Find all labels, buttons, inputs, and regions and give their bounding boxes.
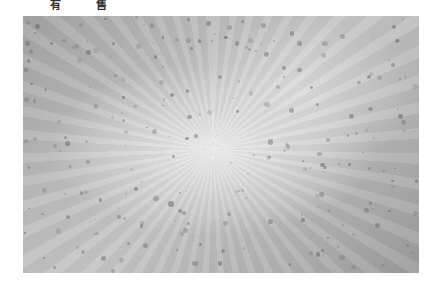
speck [30,83,33,86]
speck [98,97,100,99]
textured-photo [23,16,419,273]
speck [122,96,125,99]
speck [93,48,98,53]
speck [117,215,121,219]
speck [168,201,173,206]
speck [391,180,393,182]
speck [323,166,326,169]
speck [194,134,198,138]
speck [163,98,165,100]
speck [403,130,405,132]
speck [186,89,190,93]
speck [375,223,380,228]
speck [241,20,244,23]
speck [42,188,47,193]
speck [264,52,269,57]
speck [260,43,262,45]
speck [406,244,409,247]
speck [221,249,225,253]
speck [104,18,106,20]
speck [227,212,230,215]
speck [261,23,266,28]
speck [199,243,202,246]
speck [225,36,227,38]
speck [337,246,339,248]
speck [182,211,186,215]
speck [355,132,358,135]
speck [69,165,72,168]
speck [418,20,419,22]
speck [207,110,212,115]
speck [327,237,329,239]
speck [130,168,133,171]
speck [77,58,82,63]
speck [289,108,294,113]
speck [399,78,401,80]
speck [253,154,255,156]
speck [347,134,349,136]
speck [123,217,126,220]
speck [180,232,184,236]
caption-row: 有 售 [0,0,439,16]
speck [297,41,302,46]
speck [125,144,126,145]
speck [283,76,285,78]
speck [216,134,217,135]
speck [395,39,399,43]
speck [369,72,373,76]
speck [186,38,191,43]
speck [282,66,286,70]
speck [192,261,197,266]
speck [338,163,340,165]
speck [268,156,270,158]
speck [74,44,79,49]
speck [286,144,290,148]
speck [33,99,36,102]
speck [24,232,26,234]
speck [124,130,128,134]
speck [203,211,204,212]
speck [185,137,188,140]
speck [225,270,227,272]
speck [94,233,96,235]
speck [232,97,234,99]
speck [351,265,355,269]
speck [248,38,253,43]
speck [53,266,56,269]
speck [218,261,222,265]
speck [223,221,228,226]
speck [35,24,40,29]
speck [335,271,336,272]
speck [64,193,67,196]
speck [111,55,112,56]
speck [340,34,345,39]
speck [50,42,53,45]
speck [401,120,406,125]
speck [252,214,253,215]
speck [26,21,30,25]
speck [316,103,319,106]
speck [135,16,138,19]
speck [152,129,157,134]
speck [38,37,40,39]
speck [357,81,360,84]
speck [317,152,322,157]
speck [290,31,294,35]
speck [368,107,372,111]
speck [65,141,70,146]
speck [198,39,202,43]
speck [43,257,45,259]
speck [283,149,286,152]
speck [301,218,304,221]
speck [319,192,324,197]
speck [268,139,273,144]
speck [117,207,119,209]
radial-streaks [23,16,419,273]
speck [86,50,90,54]
speck [178,209,182,213]
speck [81,250,85,254]
speck [146,127,148,129]
speck [79,23,83,27]
caption-char-shou: 售 [96,0,107,12]
speck [27,59,30,62]
